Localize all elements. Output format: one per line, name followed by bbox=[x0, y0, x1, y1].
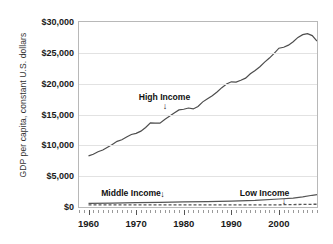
x-tick-minor bbox=[188, 210, 189, 213]
x-tick-minor bbox=[274, 210, 275, 213]
x-tick-minor bbox=[317, 210, 318, 213]
x-tick-major bbox=[231, 210, 232, 215]
x-tick-minor bbox=[269, 210, 270, 213]
x-tick-minor bbox=[284, 210, 285, 213]
x-tick-minor bbox=[79, 210, 80, 213]
plot-area bbox=[78, 21, 318, 208]
x-tick-major bbox=[89, 210, 90, 215]
x-tick-minor bbox=[246, 210, 247, 213]
x-tick-minor bbox=[208, 210, 209, 213]
x-tick-minor bbox=[131, 210, 132, 213]
x-tick-minor bbox=[260, 210, 261, 213]
x-axis-tick-labels: 19601970198019902000 bbox=[0, 210, 333, 244]
x-tick-minor bbox=[293, 210, 294, 213]
gridline bbox=[79, 176, 317, 177]
x-tick-minor bbox=[98, 210, 99, 213]
x-tick-minor bbox=[203, 210, 204, 213]
x-tick-minor bbox=[112, 210, 113, 213]
x-tick-minor bbox=[160, 210, 161, 213]
x-tick-minor bbox=[193, 210, 194, 213]
x-tick-minor bbox=[303, 210, 304, 213]
x-tick-minor bbox=[103, 210, 104, 213]
x-tick-minor bbox=[150, 210, 151, 213]
x-tick-minor bbox=[198, 210, 199, 213]
x-tick-minor bbox=[241, 210, 242, 213]
x-tick-minor bbox=[312, 210, 313, 213]
annotation-label: Middle Income bbox=[101, 188, 161, 198]
y-tick-label: $15,000 bbox=[26, 110, 74, 120]
x-tick-minor bbox=[84, 210, 85, 213]
chart-container: GDP per capita, constant U.S. dollars $0… bbox=[0, 0, 333, 244]
y-axis-tick-labels: $0$5,000$10,000$15,000$20,000$25,000$30,… bbox=[24, 0, 74, 244]
gridline bbox=[79, 53, 317, 54]
x-tick-minor bbox=[108, 210, 109, 213]
x-tick-minor bbox=[155, 210, 156, 213]
x-tick-minor bbox=[265, 210, 266, 213]
x-tick-minor bbox=[141, 210, 142, 213]
x-tick-minor bbox=[250, 210, 251, 213]
x-tick-minor bbox=[298, 210, 299, 213]
x-tick-minor bbox=[169, 210, 170, 213]
x-tick-minor bbox=[236, 210, 237, 213]
annotation-arrow-down-icon: ↓ bbox=[282, 197, 287, 206]
y-tick-label: $30,000 bbox=[26, 17, 74, 27]
x-tick-label: 1980 bbox=[173, 218, 194, 229]
x-tick-major bbox=[279, 210, 280, 215]
x-tick-label: 1960 bbox=[78, 218, 99, 229]
x-tick-minor bbox=[174, 210, 175, 213]
x-tick-minor bbox=[227, 210, 228, 213]
gridline bbox=[79, 84, 317, 85]
x-tick-minor bbox=[179, 210, 180, 213]
gridline bbox=[79, 115, 317, 116]
x-tick-minor bbox=[288, 210, 289, 213]
x-tick-minor bbox=[307, 210, 308, 213]
x-tick-label: 1970 bbox=[126, 218, 147, 229]
y-tick-label: $5,000 bbox=[26, 171, 74, 181]
x-tick-minor bbox=[93, 210, 94, 213]
x-tick-minor bbox=[217, 210, 218, 213]
x-tick-minor bbox=[212, 210, 213, 213]
x-tick-minor bbox=[255, 210, 256, 213]
x-tick-label: 1990 bbox=[221, 218, 242, 229]
x-tick-minor bbox=[165, 210, 166, 213]
x-tick-minor bbox=[117, 210, 118, 213]
y-tick-label: $25,000 bbox=[26, 48, 74, 58]
x-tick-minor bbox=[127, 210, 128, 213]
gridline bbox=[79, 145, 317, 146]
x-tick-minor bbox=[122, 210, 123, 213]
x-tick-minor bbox=[146, 210, 147, 213]
y-tick-label: $20,000 bbox=[26, 79, 74, 89]
x-tick-major bbox=[136, 210, 137, 215]
x-tick-label: 2000 bbox=[268, 218, 289, 229]
y-tick-label: $10,000 bbox=[26, 140, 74, 150]
x-tick-minor bbox=[222, 210, 223, 213]
annotation-arrow-down-icon: ↓ bbox=[163, 102, 168, 111]
annotation-arrow-down-icon: ↓ bbox=[160, 190, 165, 199]
x-tick-major bbox=[184, 210, 185, 215]
